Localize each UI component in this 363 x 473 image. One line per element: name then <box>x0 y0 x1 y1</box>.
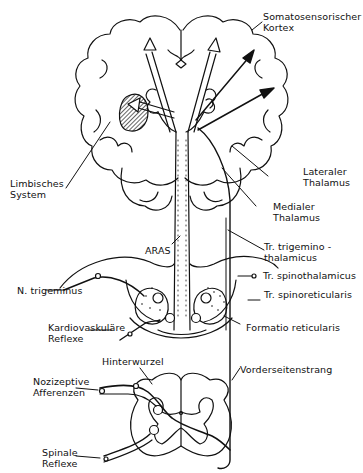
label-medial-thalamus: Medialer Thalamus <box>273 201 320 223</box>
limbic-region <box>119 94 148 131</box>
brain-outline <box>75 16 288 210</box>
label-cardiovascular-reflexes: Kardiovaskuläre Reflexe <box>48 322 125 344</box>
pain-pathway-diagram <box>0 0 363 473</box>
label-trigemino-thalamic-tract: Tr. trigemino - thalamicus <box>264 241 331 263</box>
spinal-cord <box>100 373 232 462</box>
label-nociceptive-afferents: Nozizeptive Afferenzen <box>33 376 89 398</box>
label-somatosensory-cortex: Somatosensorischer Kortex <box>263 11 361 33</box>
label-formatio-reticularis: Formatio reticularis <box>246 322 340 333</box>
label-spinoreticular-tract: Tr. spinoreticularis <box>264 289 352 300</box>
label-n-trigeminus: N. trigeminus <box>17 285 82 296</box>
label-lateral-thalamus: Lateraler Thalamus <box>303 166 350 188</box>
label-dorsal-root: Hinterwurzel <box>102 356 164 367</box>
label-spinal-reflexes: Spinale Reflexe <box>42 447 78 469</box>
label-aras: ARAS <box>145 245 171 256</box>
label-limbic-system: Limbisches System <box>10 178 64 200</box>
label-anterolateral-tract: Vorderseitenstrang <box>240 364 332 375</box>
aras-column <box>128 38 220 330</box>
label-spinothalamic-tract: Tr. spinothalamicus <box>263 270 356 281</box>
